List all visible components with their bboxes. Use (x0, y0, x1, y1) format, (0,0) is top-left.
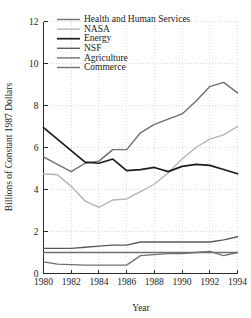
y-tick-label: 10 (29, 59, 39, 69)
x-tick-label: 1990 (173, 277, 192, 287)
line-chart: 024681012 198019821984198619881990199219… (0, 0, 251, 318)
x-tick-label: 1988 (145, 277, 164, 287)
x-tick-label: 1984 (89, 277, 108, 287)
y-tick-label: 2 (34, 227, 39, 237)
series-line (44, 127, 238, 208)
series-line (44, 237, 238, 249)
x-tick-label: 1980 (34, 277, 53, 287)
legend-label: Commerce (84, 62, 126, 72)
legend-label: NSF (84, 43, 101, 53)
legend-label: Health and Human Services (84, 14, 191, 24)
series-line (44, 82, 238, 171)
series-line (44, 128, 238, 174)
x-tick-labels: 19801982198419861988199019921994 (34, 277, 247, 287)
chart-figure: 024681012 198019821984198619881990199219… (0, 0, 251, 318)
y-tick-labels: 024681012 (29, 17, 39, 279)
y-tick-label: 4 (34, 185, 39, 195)
data-series (44, 82, 238, 265)
x-axis-title: Year (132, 303, 150, 313)
y-tick-label: 12 (29, 17, 39, 27)
y-tick-label: 6 (34, 143, 39, 153)
legend-label: Energy (84, 33, 112, 43)
x-tick-label: 1992 (200, 277, 219, 287)
legend-label: Agriculture (84, 53, 128, 63)
x-tick-label: 1994 (228, 277, 247, 287)
x-tick-label: 1982 (62, 277, 81, 287)
legend-label: NASA (84, 24, 110, 34)
y-tick-label: 8 (34, 101, 39, 111)
x-tick-label: 1986 (117, 277, 136, 287)
y-axis-title: Billions of Constant 1987 Dollars (4, 83, 14, 212)
series-line (44, 251, 238, 265)
grid-lines (44, 22, 238, 274)
